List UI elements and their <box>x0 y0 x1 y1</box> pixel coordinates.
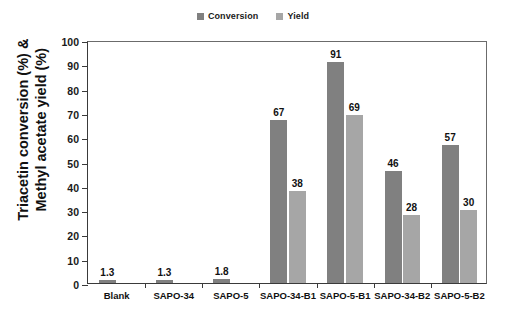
y-axis-tick-label: 60 <box>67 133 79 145</box>
x-axis-tick <box>317 283 318 288</box>
bar-value-label: 1.3 <box>158 267 172 278</box>
y-axis-tick-label: 0 <box>73 279 79 291</box>
bar-yield[interactable]: 28 <box>403 215 420 283</box>
bar-group: 9169SAPO-5-B1 <box>317 42 374 283</box>
y-axis-tick-label: 70 <box>67 109 79 121</box>
x-axis-tick <box>431 283 432 288</box>
bar-yield[interactable]: 69 <box>346 115 363 283</box>
x-axis-tick <box>202 283 203 288</box>
bar-group: 6738SAPO-34-B1 <box>259 42 316 283</box>
legend-entry-conversion[interactable]: Conversion <box>197 12 259 21</box>
bar-chart-figure: ConversionYield Triacetin conversion (%)… <box>0 0 506 319</box>
bar-value-label: 28 <box>406 202 417 213</box>
bar-yield[interactable]: 30 <box>460 210 477 283</box>
legend-swatch-icon <box>276 13 283 20</box>
bar-value-label: 46 <box>387 158 398 169</box>
x-axis-tick-label: SAPO-34-B2 <box>374 290 430 301</box>
y-axis-tick <box>82 285 88 286</box>
x-axis-tick-label: SAPO-5 <box>213 290 248 301</box>
x-axis-tick-label: Blank <box>104 290 130 301</box>
legend-entry-yield[interactable]: Yield <box>276 12 309 21</box>
y-axis-tick-label: 40 <box>67 182 79 194</box>
y-axis-tick-label: 90 <box>67 60 79 72</box>
bar-conversion[interactable]: 1.8 <box>213 279 230 283</box>
bar-value-label: 91 <box>330 49 341 60</box>
bar-conversion[interactable]: 67 <box>270 120 287 283</box>
bar-group: 5730SAPO-5-B2 <box>431 42 488 283</box>
bar-conversion[interactable]: 91 <box>327 62 344 283</box>
bar-group: 1.8SAPO-5 <box>202 42 259 283</box>
plot-area: 01020304050607080901001.3Blank1.3SAPO-34… <box>87 41 487 284</box>
y-axis-tick-label: 20 <box>67 230 79 242</box>
legend-label: Yield <box>287 12 309 21</box>
bar-group: 1.3SAPO-34 <box>145 42 202 283</box>
bar-conversion[interactable]: 46 <box>385 171 402 283</box>
bar-conversion[interactable]: 1.3 <box>99 280 116 283</box>
bar-group: 4628SAPO-34-B2 <box>374 42 431 283</box>
y-axis-title-line-1: Triacetin conversion (%) & <box>15 5 33 255</box>
x-axis-tick <box>259 283 260 288</box>
chart-legend: ConversionYield <box>0 8 506 24</box>
bar-value-label: 57 <box>445 132 456 143</box>
bar-conversion[interactable]: 57 <box>442 145 459 284</box>
bar-conversion[interactable]: 1.3 <box>156 280 173 283</box>
bar-value-label: 1.8 <box>215 266 229 277</box>
x-axis-tick <box>374 283 375 288</box>
x-axis-tick <box>145 283 146 288</box>
bar-group: 1.3Blank <box>88 42 145 283</box>
y-axis-title-line-2: Methyl acetate yield (%) <box>33 5 51 255</box>
legend-label: Conversion <box>208 12 259 21</box>
x-axis-tick-label: SAPO-34-B1 <box>260 290 316 301</box>
bar-value-label: 69 <box>349 102 360 113</box>
x-axis-tick-label: SAPO-5-B1 <box>320 290 371 301</box>
legend-swatch-icon <box>197 13 204 20</box>
y-axis-tick-label: 10 <box>67 255 79 267</box>
x-axis-tick-label: SAPO-5-B2 <box>434 290 485 301</box>
y-axis-tick-label: 30 <box>67 206 79 218</box>
bar-yield[interactable]: 38 <box>289 191 306 283</box>
bar-value-label: 1.3 <box>100 267 114 278</box>
bar-value-label: 30 <box>463 197 474 208</box>
y-axis-tick-label: 50 <box>67 158 79 170</box>
bar-value-label: 67 <box>273 107 284 118</box>
x-axis-tick-label: SAPO-34 <box>153 290 194 301</box>
y-axis-tick-label: 100 <box>61 36 79 48</box>
bar-value-label: 38 <box>292 178 303 189</box>
y-axis-tick-label: 80 <box>67 85 79 97</box>
y-axis-title: Triacetin conversion (%) & Methyl acetat… <box>15 5 50 255</box>
